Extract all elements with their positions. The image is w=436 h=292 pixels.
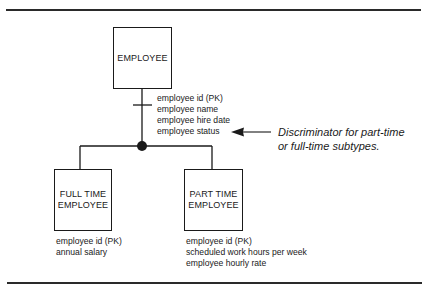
attribute: employee hourly rate xyxy=(186,258,307,269)
attribute: scheduled work hours per week xyxy=(186,247,307,258)
entity-employee: EMPLOYEE xyxy=(113,27,172,89)
annotation-line-1: Discriminator for part-time xyxy=(278,125,405,139)
full-time-attributes: employee id (PK) annual salary xyxy=(56,236,122,258)
annotation-line-2: or full-time subtypes. xyxy=(278,139,405,153)
entity-name-line-2: EMPLOYEE xyxy=(188,200,238,211)
entity-name-line-1: FULL TIME xyxy=(58,189,108,200)
subtype-circle xyxy=(137,141,147,151)
annotation-arrowhead xyxy=(231,128,244,137)
entity-name-line-1: PART TIME xyxy=(188,189,238,200)
attribute: employee id (PK) xyxy=(56,236,122,247)
attribute: employee hire date xyxy=(157,115,230,126)
attribute-discriminator: employee status xyxy=(157,126,230,137)
entity-part-time-employee: PART TIME EMPLOYEE xyxy=(184,169,243,231)
attribute: employee name xyxy=(157,104,230,115)
discriminator-annotation: Discriminator for part-time or full-time… xyxy=(278,125,405,153)
attribute: annual salary xyxy=(56,247,122,258)
attribute: employee id (PK) xyxy=(186,236,307,247)
attribute: employee id (PK) xyxy=(157,93,230,104)
entity-full-time-employee: FULL TIME EMPLOYEE xyxy=(54,169,112,231)
part-time-attributes: employee id (PK) scheduled work hours pe… xyxy=(186,236,307,269)
entity-employee-name: EMPLOYEE xyxy=(117,53,167,64)
entity-name-line-2: EMPLOYEE xyxy=(58,200,108,211)
employee-attributes: employee id (PK) employee name employee … xyxy=(157,93,230,137)
